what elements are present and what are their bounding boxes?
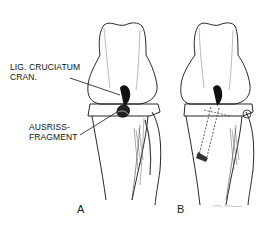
ligament-label: LIG. CRUCIATUM CRAN. [10, 62, 80, 82]
knee-drawings [0, 0, 269, 238]
panel-letter-b: B [177, 203, 184, 215]
knee-panel-b [181, 23, 254, 207]
ligament-label-line2: CRAN. [10, 72, 80, 82]
ligament-label-line1: LIG. CRUCIATUM [10, 62, 80, 72]
fragment-label-line2: FRAGMENT [29, 132, 78, 142]
fragment-label: AUSRISS- FRAGMENT [29, 122, 78, 142]
fragment-leader-line [80, 112, 117, 135]
fragment-label-line1: AUSRISS- [29, 122, 78, 132]
anatomical-illustration: LIG. CRUCIATUM CRAN. AUSRISS- FRAGMENT A… [0, 0, 269, 238]
knee-panel-a [88, 23, 161, 205]
panel-letter-a: A [77, 203, 84, 215]
